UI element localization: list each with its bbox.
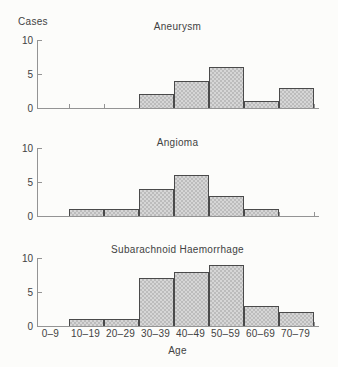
- y-tick-label: 5: [17, 177, 33, 188]
- y-tick-label: 5: [17, 69, 33, 80]
- chart-title-subarachnoid-haemorrhage: Subarachnoid Haemorrhage: [37, 244, 318, 255]
- y-axis-tick: [38, 148, 42, 149]
- x-category-label: 20–29: [103, 328, 139, 339]
- bar-20-29: [104, 319, 139, 326]
- y-tick-label: 0: [17, 211, 33, 222]
- y-tick-label: 0: [17, 103, 33, 114]
- x-category-label: 40–49: [173, 328, 209, 339]
- chart-title-angioma: Angioma: [37, 137, 318, 148]
- plot-aneurysm: 1050: [37, 40, 319, 109]
- x-axis-tick: [314, 322, 315, 326]
- y-axis-tick: [38, 40, 42, 41]
- x-axis-tick-labels: 0–910–1920–2930–3940–4950–5960–6970–79: [37, 328, 318, 340]
- bar-10-19: [69, 319, 104, 326]
- bar-60-69: [244, 209, 279, 216]
- chart-title-aneurysm: Aneurysm: [37, 21, 318, 32]
- x-axis-tick: [314, 212, 315, 216]
- bar-30-39: [139, 278, 174, 326]
- bar-30-39: [139, 189, 174, 216]
- plot-subarachnoid-haemorrhage: 1050: [37, 258, 319, 327]
- y-tick-label: 5: [17, 287, 33, 298]
- x-category-label: 0–9: [33, 328, 69, 339]
- x-axis-title: Age: [37, 345, 318, 356]
- x-category-label: 50–59: [208, 328, 244, 339]
- x-category-label: 70–79: [278, 328, 314, 339]
- bar-30-39: [139, 94, 174, 108]
- y-axis-tick: [38, 182, 42, 183]
- x-category-label: 60–69: [243, 328, 279, 339]
- y-tick-label: 0: [17, 321, 33, 332]
- y-axis-tick: [38, 292, 42, 293]
- bar-60-69: [244, 306, 279, 326]
- bar-40-49: [174, 272, 209, 326]
- bar-70-79: [279, 312, 314, 326]
- plot-angioma: 1050: [37, 148, 319, 217]
- y-tick-label: 10: [17, 143, 33, 154]
- x-category-label: 30–39: [138, 328, 174, 339]
- bar-20-29: [104, 209, 139, 216]
- y-axis-tick: [38, 258, 42, 259]
- bar-70-79: [279, 88, 314, 108]
- bar-10-19: [69, 209, 104, 216]
- bar-50-59: [209, 265, 244, 326]
- x-category-label: 10–19: [68, 328, 104, 339]
- x-axis-tick: [104, 104, 105, 108]
- x-axis-tick: [314, 104, 315, 108]
- bar-50-59: [209, 67, 244, 108]
- histogram-figure: Cases Aneurysm 1050 Angioma 1050 Subarac…: [0, 0, 338, 367]
- bar-40-49: [174, 81, 209, 108]
- bar-40-49: [174, 175, 209, 216]
- x-axis-tick: [69, 104, 70, 108]
- y-axis-tick: [38, 74, 42, 75]
- x-axis-tick: [279, 212, 280, 216]
- y-tick-label: 10: [17, 253, 33, 264]
- y-tick-label: 10: [17, 35, 33, 46]
- bar-60-69: [244, 101, 279, 108]
- bar-50-59: [209, 196, 244, 216]
